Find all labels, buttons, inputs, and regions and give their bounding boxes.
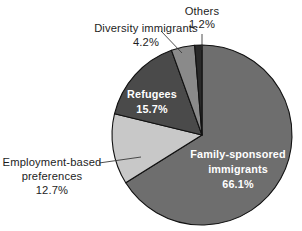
label-family-sponsored-name-line1: Family-sponsored bbox=[190, 148, 285, 160]
label-employment-based-name-line2: preferences bbox=[22, 170, 83, 182]
pie-slices bbox=[112, 45, 292, 225]
pie-chart-figure: Others 1.2% Diversity immigrants 4.2% Em… bbox=[0, 0, 302, 231]
pie-chart-canvas: Others 1.2% Diversity immigrants 4.2% Em… bbox=[0, 0, 302, 231]
label-refugees-value: 15.7% bbox=[136, 103, 168, 115]
label-employment-based-value: 12.7% bbox=[36, 184, 68, 196]
label-refugees-name: Refugees bbox=[127, 88, 177, 100]
label-others-name: Others bbox=[185, 5, 220, 17]
label-family-sponsored-value: 66.1% bbox=[222, 178, 254, 190]
label-diversity-immigrants-value: 4.2% bbox=[133, 36, 159, 48]
label-diversity-immigrants-name: Diversity immigrants bbox=[94, 22, 198, 34]
label-family-sponsored-name-line2: immigrants bbox=[208, 163, 268, 175]
label-employment-based-name-line1: Employment-based bbox=[3, 156, 102, 168]
